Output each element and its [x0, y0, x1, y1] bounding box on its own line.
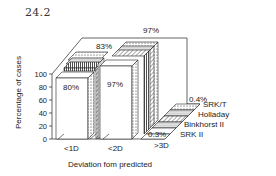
bar-group-lt2d: [100, 42, 158, 139]
y-tick-0: 0: [43, 135, 47, 144]
annotation-lt1d-srk2: 80%: [63, 83, 79, 92]
legend-binkhorst2: Binkhorst II: [184, 120, 224, 129]
legend-holladay: Holladay: [198, 110, 229, 119]
legend-srk2: SRK II: [180, 130, 203, 139]
y-tick-100: 100: [34, 70, 47, 79]
bar-chart-3d: 0 20 40 60 80 100: [0, 0, 276, 176]
y-tick-20: 20: [39, 122, 47, 131]
y-tick-40: 40: [39, 109, 47, 118]
y-tick-80: 80: [39, 83, 47, 92]
x-tick-lt2d: <2D: [108, 144, 123, 153]
annotation-lt2d-srk2: 97%: [107, 80, 123, 89]
y-axis-label: Percentage of cases: [14, 53, 23, 133]
x-tick-gt3d: >3D: [154, 141, 169, 150]
legend-srkt: SRK/T: [203, 100, 227, 109]
y-tick-60: 60: [39, 96, 47, 105]
annotation-gt3d-srk2: 0.3%: [148, 130, 166, 139]
x-tick-lt1d: <1D: [64, 144, 79, 153]
y-axis: [49, 74, 52, 139]
annotation-lt2d-srkt: 97%: [143, 26, 159, 35]
annotation-lt1d-srkt: 83%: [96, 42, 112, 51]
x-axis-label: Deviation fom predicted: [68, 160, 152, 169]
